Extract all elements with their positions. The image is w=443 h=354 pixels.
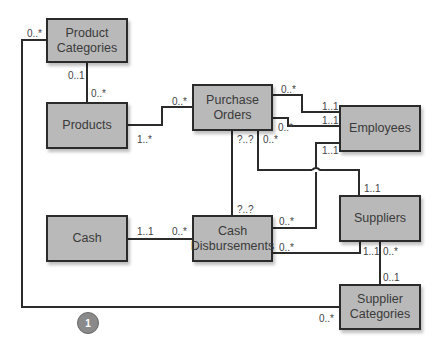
multiplicity-label: 0..1 [68,70,85,81]
multiplicity-label: 0..* [91,88,106,99]
multiplicity-label: 1..1 [364,183,381,194]
multiplicity-label: 0..* [263,134,278,145]
products-po-line [128,107,192,125]
multiplicity-label: 0..* [172,96,187,107]
po-sup-line-b [312,168,359,195]
multiplicity-label: 0..* [279,242,294,253]
multiplicity-label: 1..1 [322,115,339,126]
multiplicity-label: 1..1 [322,145,339,156]
entity-employees[interactable]: Employees [339,105,421,152]
entity-suppliers[interactable]: Suppliers [339,195,421,242]
multiplicity-label: 1..1 [322,101,339,112]
multiplicity-label: 0..* [281,84,296,95]
multiplicity-label: 0..* [319,313,334,324]
multiplicity-label: 1..1 [137,226,154,237]
multiplicity-label: 0..* [279,216,294,227]
entity-cash[interactable]: Cash [46,215,128,262]
multiplicity-label: 0..* [383,246,398,257]
multiplicity-label: ?..? [237,134,254,145]
entity-cash-disbursements[interactable]: Cash Disbursements [192,215,273,262]
entity-supplier-categories[interactable]: Supplier Categories [339,284,421,330]
multiplicity-label: 0..* [27,28,42,39]
entity-purchase-orders[interactable]: Purchase Orders [192,84,273,131]
multiplicity-label: 0..* [172,226,187,237]
entity-product-categories[interactable]: Product Categories [46,18,128,63]
multiplicity-label: 0..* [278,122,293,133]
multiplicity-label: ?..? [237,204,254,215]
multiplicity-label: 1..* [137,134,152,145]
entity-products[interactable]: Products [46,102,128,149]
multiplicity-label: 1..1 [363,246,380,257]
callout-badge: 1 [77,312,99,334]
multiplicity-label: 0..1 [383,272,400,283]
